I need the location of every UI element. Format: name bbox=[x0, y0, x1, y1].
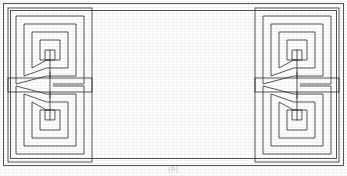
figure-root: Decorative rectangular panel with four s… bbox=[0, 0, 347, 176]
panel-line-drawing: Decorative rectangular panel with four s… bbox=[0, 0, 347, 176]
paper-background bbox=[0, 0, 347, 176]
